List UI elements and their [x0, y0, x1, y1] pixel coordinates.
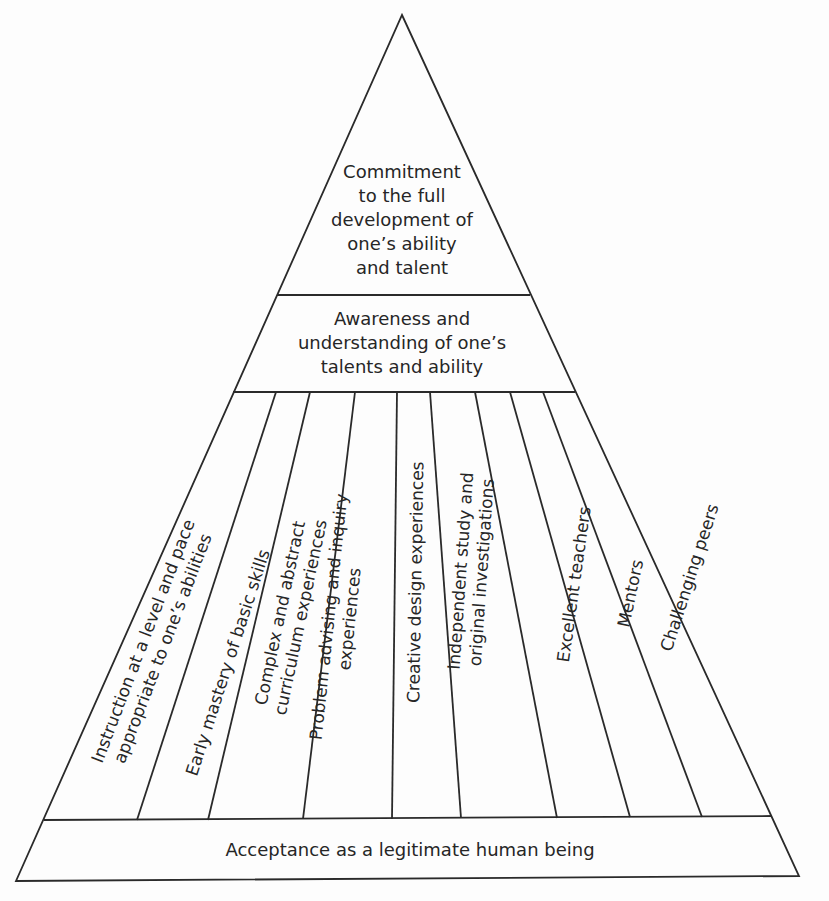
level-top-label: Commitment to the full development of on…	[302, 160, 502, 280]
text-line: one’s ability	[302, 232, 502, 256]
text-line: Acceptance as a legitimate human being	[160, 838, 660, 862]
text-line: to the full	[302, 184, 502, 208]
text-line: talents and ability	[252, 355, 552, 379]
text-line: and talent	[302, 256, 502, 280]
text-line: understanding of one’s	[252, 331, 552, 355]
column-divider	[392, 392, 397, 819]
text-line: development of	[302, 208, 502, 232]
text-line: Commitment	[302, 160, 502, 184]
level-base-label: Acceptance as a legitimate human being	[160, 838, 660, 862]
separator-base	[44, 816, 772, 820]
level-second-label: Awareness and understanding of one’s tal…	[252, 307, 552, 379]
text-line: Awareness and	[252, 307, 552, 331]
pyramid-diagram: Commitment to the full development of on…	[0, 0, 829, 901]
